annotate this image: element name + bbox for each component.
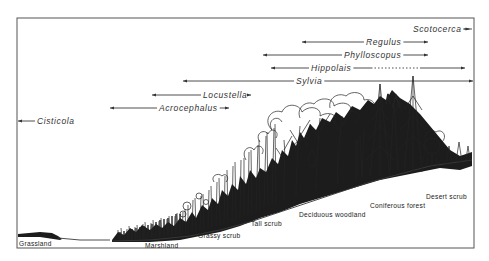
arrow-left-icon bbox=[110, 106, 114, 109]
genus-label: Locustella bbox=[203, 90, 247, 100]
arrow-left-icon bbox=[18, 119, 22, 122]
genus-range-hippolais: Hippolais bbox=[271, 63, 465, 73]
landscape-profile bbox=[18, 90, 472, 242]
habitat-label-grassy-scrub: Grassy scrub bbox=[198, 232, 240, 240]
arrow-right-icon bbox=[461, 66, 465, 69]
habitat-label-desert-scrub: Desert scrub bbox=[426, 193, 467, 200]
arrow-right-icon bbox=[247, 93, 251, 96]
arrow-right-icon bbox=[466, 27, 470, 30]
arrow-right-icon bbox=[225, 106, 229, 109]
genus-label: Scotocerca bbox=[413, 24, 462, 34]
arrow-left-icon bbox=[302, 40, 306, 43]
genus-range-sylvia: Sylvia bbox=[183, 76, 473, 86]
arrow-right-icon bbox=[424, 40, 428, 43]
arrow-right-icon bbox=[469, 79, 473, 82]
habitat-diagram: ScotocercaRegulusPhylloscopusHippolaisSy… bbox=[0, 0, 489, 261]
genus-label: Acrocephalus bbox=[158, 103, 218, 113]
arrow-left-icon bbox=[271, 66, 275, 69]
habitat-label-tall-scrub: Tall scrub bbox=[251, 220, 282, 227]
habitat-label-grassland: Grassland bbox=[19, 240, 52, 247]
genus-range-regulus: Regulus bbox=[302, 37, 428, 47]
arrow-left-icon bbox=[263, 53, 267, 56]
genus-range-cisticola: Cisticola bbox=[18, 116, 75, 126]
genus-label: Phylloscopus bbox=[344, 50, 401, 60]
arrow-right-icon bbox=[424, 53, 428, 56]
genus-range-acrocephalus: Acrocephalus bbox=[110, 103, 229, 113]
genus-label: Hippolais bbox=[311, 63, 352, 73]
genus-range-locustella: Locustella bbox=[152, 90, 251, 100]
habitat-label-marshland: Marshland bbox=[145, 242, 179, 249]
genus-range-phylloscopus: Phylloscopus bbox=[263, 50, 428, 60]
habitat-label-coniferous-forest: Coniferous forest bbox=[370, 202, 425, 209]
arrow-left-icon bbox=[152, 93, 156, 96]
genus-range-scotocerca: Scotocerca bbox=[413, 24, 472, 34]
arrow-left-icon bbox=[183, 79, 187, 82]
habitat-label-deciduous-woodland: Deciduous woodland bbox=[299, 211, 366, 218]
genus-label: Regulus bbox=[366, 37, 402, 47]
genus-label: Sylvia bbox=[296, 76, 322, 86]
genus-label: Cisticola bbox=[37, 116, 75, 126]
